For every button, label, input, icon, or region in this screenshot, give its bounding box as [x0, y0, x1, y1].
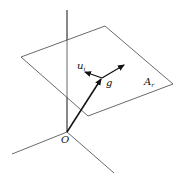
plane [21, 26, 173, 116]
right-axis [67, 132, 114, 173]
left-axis [12, 132, 67, 154]
label-vector-g: g [106, 77, 112, 88]
diagram-canvas: ui g Ar O [0, 0, 186, 184]
label-origin: O [61, 134, 69, 145]
